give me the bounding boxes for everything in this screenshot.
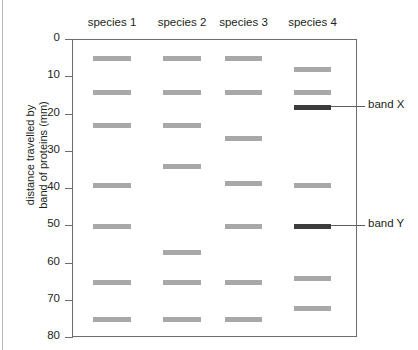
y-tick-label-10: 10 <box>20 68 60 80</box>
band-species2-1 <box>163 56 201 61</box>
callout-line-1 <box>331 106 365 107</box>
gel-electrophoresis-diagram: distance travelled by band of proteins (… <box>0 0 418 350</box>
y-tick-label-0: 0 <box>20 31 60 43</box>
band-species4-7 <box>294 306 331 311</box>
band-species4-6 <box>294 276 331 281</box>
y-tick-label-40: 40 <box>20 180 60 192</box>
band-species2-3 <box>163 123 201 128</box>
column-header-3: species 3 <box>204 16 284 28</box>
band-species4-4 <box>294 183 331 188</box>
band-species1-7 <box>93 317 131 322</box>
band-species1-4 <box>93 183 131 188</box>
band-species2-2 <box>163 90 201 95</box>
column-header-4: species 4 <box>273 16 353 28</box>
y-tick-label-50: 50 <box>20 217 60 229</box>
y-tick-80 <box>65 337 73 338</box>
callout-label-band-x: band X <box>368 98 404 110</box>
band-species4-3 <box>294 105 331 110</box>
callout-line-2 <box>331 225 365 226</box>
band-species2-7 <box>163 317 201 322</box>
band-species2-6 <box>163 280 201 285</box>
y-tick-label-80: 80 <box>20 329 60 341</box>
y-tick-label-30: 30 <box>20 143 60 155</box>
band-species3-1 <box>225 56 262 61</box>
band-species2-5 <box>163 250 201 255</box>
band-species1-1 <box>93 56 131 61</box>
band-species1-3 <box>93 123 131 128</box>
callout-label-band-y: band Y <box>368 217 404 229</box>
band-species3-4 <box>225 181 262 186</box>
page-left-rule <box>2 0 3 350</box>
band-species3-7 <box>225 317 262 322</box>
column-header-1: species 1 <box>72 16 152 28</box>
band-species2-4 <box>163 164 201 169</box>
gel-plot-area <box>72 39 357 337</box>
band-species4-1 <box>294 67 331 72</box>
band-species1-5 <box>93 224 131 229</box>
band-species4-2 <box>294 90 331 95</box>
band-species3-2 <box>225 90 262 95</box>
y-tick-label-60: 60 <box>20 255 60 267</box>
band-species4-5 <box>294 224 331 229</box>
band-species3-3 <box>225 136 262 141</box>
band-species1-2 <box>93 90 131 95</box>
band-species3-5 <box>225 224 262 229</box>
y-tick-label-20: 20 <box>20 106 60 118</box>
y-tick-label-70: 70 <box>20 292 60 304</box>
band-species3-6 <box>225 280 262 285</box>
band-species1-6 <box>93 280 131 285</box>
